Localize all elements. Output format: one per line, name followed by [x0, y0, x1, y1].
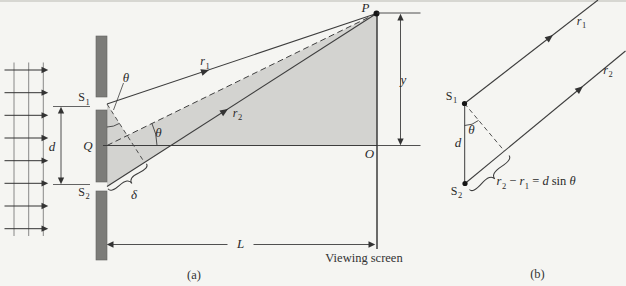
label-theta-slit-a: θ — [123, 70, 129, 83]
label-s1-b: S1 — [446, 90, 457, 102]
label-l: L — [237, 236, 244, 249]
label-theta-axis-a: θ — [155, 125, 161, 138]
figure-youngs-double-slit: S1 Q S2 d θ θ r1 r2 δ P O y L Viewing sc… — [0, 0, 626, 286]
label-o: O — [365, 146, 374, 159]
label-viewing-screen: Viewing screen — [325, 251, 402, 264]
label-y: y — [401, 72, 407, 85]
plane-wave-arrows — [5, 70, 44, 229]
label-delta: δ — [131, 187, 137, 200]
label-d-a: d — [49, 139, 56, 152]
plane-wavefronts — [14, 63, 43, 237]
ray-r2-b — [465, 51, 626, 184]
label-s1-a: S1 — [78, 91, 89, 103]
label-q: Q — [83, 139, 92, 152]
point-p-dot — [374, 11, 380, 17]
label-r2-a: r2 — [233, 107, 242, 119]
equation-path-difference: r2 − r1 = d sin θ — [497, 175, 576, 188]
label-s2-b: S2 — [451, 185, 462, 197]
theta-pointer-line — [114, 83, 124, 110]
caption-a: (a) — [187, 268, 201, 281]
label-r1-b: r1 — [577, 15, 586, 27]
label-p: P — [362, 0, 370, 13]
label-s2-a: S2 — [78, 186, 89, 198]
caption-b: (b) — [530, 267, 545, 280]
diagram-canvas — [0, 0, 626, 286]
label-d-b: d — [455, 135, 462, 148]
label-theta-b: θ — [468, 122, 474, 135]
label-r2-b: r2 — [603, 64, 612, 76]
label-r1-a: r1 — [200, 55, 209, 67]
screen-ticks — [377, 13, 421, 146]
barrier — [96, 36, 107, 260]
